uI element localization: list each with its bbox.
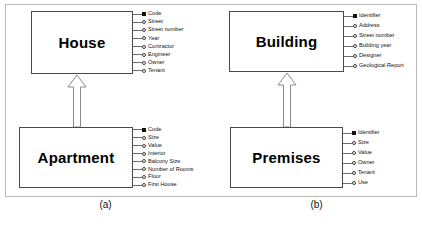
attribute-marker-icon [352,151,356,155]
generalization-arrow-b [277,72,297,128]
attribute-row: Size [133,134,193,142]
attribute-leader-line [344,36,353,37]
attribute-label: Engineer [148,52,170,58]
attribute-marker-icon [353,44,357,48]
attribute-leader-line [343,163,352,164]
attribute-row: Contractor [133,43,183,51]
attribute-row: Street [133,18,183,26]
attribute-marker-icon [352,171,356,175]
attribute-list-superclass-b: IdentifierAddressStreet numberBuilding y… [344,12,404,70]
attribute-label: Value [148,143,162,149]
attribute-list-subclass-b: IdentifierSizeValueOwnerTenantUse [343,129,379,187]
panel-caption-b: (b) [211,199,422,210]
attribute-label: Code [148,11,161,17]
attribute-label: Identifier [359,13,380,19]
attribute-leader-line [343,173,352,174]
primary-key-marker-icon [142,12,146,16]
attribute-marker-icon [142,152,146,156]
attribute-row: Tenant [343,169,379,177]
attribute-row: Use [343,179,379,187]
attribute-row: First House [133,181,193,189]
attribute-leader-line [344,46,353,47]
attribute-label: Street number [148,27,183,33]
attribute-marker-icon [142,183,146,187]
entity-name: Apartment [38,149,115,166]
attribute-label: Balcony Size [148,159,180,165]
primary-key-marker-icon [142,128,146,132]
attribute-label: Designer [359,53,381,59]
attribute-marker-icon [142,136,146,140]
entity-name: Premises [252,149,320,166]
attribute-row: Geological Report [344,62,404,70]
entity-box-subclass-a[interactable]: Apartment [19,127,133,188]
attribute-leader-line [343,183,352,184]
attribute-marker-icon [352,161,356,165]
attribute-leader-line [133,46,142,47]
primary-key-marker-icon [353,14,357,18]
panel-caption-a: (a) [0,199,211,210]
attribute-leader-line [133,145,142,146]
attribute-marker-icon [142,53,146,57]
attribute-marker-icon [142,61,146,65]
attribute-label: Street number [359,33,394,39]
attribute-leader-line [343,133,352,134]
attribute-marker-icon [142,36,146,40]
attribute-label: Contractor [148,44,174,50]
attribute-label: Geological Report [359,63,404,69]
attribute-list-superclass-a: CodeStreetStreet numberYearContractorEng… [133,10,183,75]
attribute-label: Interior [148,151,165,157]
attribute-marker-icon [142,144,146,148]
attribute-leader-line [133,129,142,130]
attribute-label: Tenant [358,170,375,176]
attribute-label: Value [358,150,372,156]
attribute-row: Balcony Size [133,158,193,166]
attribute-leader-line [133,54,142,55]
attribute-leader-line [344,56,353,57]
attribute-leader-line [133,169,142,170]
attribute-label: Identifier [358,130,379,136]
attribute-label: Owner [148,60,164,66]
attribute-label: Address [359,23,380,29]
attribute-marker-icon [142,45,146,49]
attribute-marker-icon [142,69,146,73]
attribute-label: Street [148,19,163,25]
attribute-marker-icon [353,24,357,28]
attribute-row: Address [344,22,404,30]
generalization-arrow-a [67,74,87,128]
attribute-row: Street number [133,26,183,34]
attribute-row: Identifier [344,12,404,20]
attribute-leader-line [343,153,352,154]
attribute-row: Tenant [133,67,183,75]
attribute-label: Tenant [148,68,165,74]
diagram-panel-b: Building IdentifierAddressStreet numberB… [211,0,422,226]
attribute-marker-icon [142,20,146,24]
attribute-label: Building year [359,43,391,49]
entity-box-subclass-b[interactable]: Premises [230,127,343,188]
attribute-marker-icon [353,54,357,58]
attribute-leader-line [133,30,142,31]
attribute-label: Size [148,135,159,141]
attribute-leader-line [344,16,353,17]
attribute-label: Number of Rooms [148,167,193,173]
attribute-label: Owner [358,160,374,166]
attribute-leader-line [133,62,142,63]
attribute-leader-line [133,70,142,71]
attribute-leader-line [133,137,142,138]
attribute-label: Use [358,180,368,186]
attribute-leader-line [133,38,142,39]
attribute-row: Owner [343,159,379,167]
attribute-label: Year [148,36,159,42]
attribute-marker-icon [142,159,146,163]
attribute-label: First House [148,182,177,188]
entity-box-superclass-a[interactable]: House [31,11,133,74]
attribute-marker-icon [142,167,146,171]
attribute-row: Code [133,126,193,134]
entity-name: House [59,34,106,51]
attribute-row: Interior [133,150,193,158]
attribute-leader-line [133,22,142,23]
attribute-row: Value [343,149,379,157]
attribute-row: Size [343,139,379,147]
attribute-marker-icon [353,64,357,68]
entity-box-superclass-b[interactable]: Building [229,11,344,72]
attribute-leader-line [133,177,142,178]
